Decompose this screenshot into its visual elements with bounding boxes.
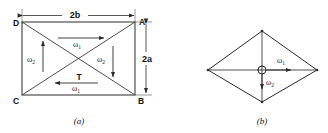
corner-label-d: D: [13, 18, 19, 28]
vector-label-omega2-right: ω2: [97, 55, 105, 65]
rhombus-vertex-bottom: [261, 101, 264, 104]
panel-a-group: 2b D A B C 2a ω1 ω2 ω2: [13, 9, 155, 126]
vector-label-omega1-right: ω1: [277, 56, 285, 66]
dimension-width-label: 2b: [70, 10, 81, 20]
rhombus-vertex-top: [261, 30, 264, 33]
caption-panel-b: (b): [257, 116, 268, 126]
vector-label-omega2-down: ω2: [266, 78, 274, 88]
vector-label-omega2-left: ω2: [27, 55, 35, 65]
dimension-height-label: 2a: [142, 54, 153, 64]
figure-container: 2b D A B C 2a ω1 ω2 ω2: [0, 0, 328, 133]
vector-label-omega1-top: ω1: [73, 40, 81, 50]
vector-label-omega1-bottom: ω1: [72, 84, 80, 94]
rhombus-vertex-left: [207, 69, 210, 72]
corner-label-c: C: [13, 96, 19, 106]
rhombus-vertex-right: [316, 69, 319, 72]
corner-label-b: B: [138, 96, 144, 106]
caption-panel-a: (a): [74, 116, 85, 126]
figure-svg: 2b D A B C 2a ω1 ω2 ω2: [0, 0, 328, 133]
torque-label-t: T: [76, 72, 82, 82]
panel-b-group: ω1 ω2 (b): [207, 30, 319, 126]
